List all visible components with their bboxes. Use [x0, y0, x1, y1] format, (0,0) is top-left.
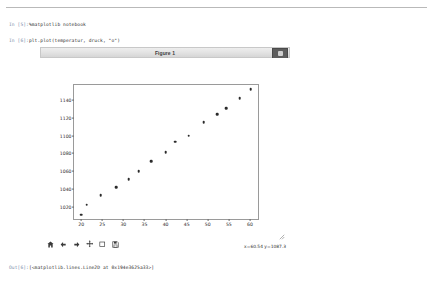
- x-tick-mark: [102, 219, 103, 221]
- matplotlib-figure-window[interactable]: Figure 1 1020104010601080110011201140202…: [40, 47, 290, 253]
- data-point: [164, 151, 167, 154]
- x-tick-mark: [81, 219, 82, 221]
- cell-code-in-5: %matplotlib notebook: [29, 22, 86, 27]
- y-tick-label: 1140: [60, 98, 72, 103]
- x-tick-mark: [144, 219, 145, 221]
- stop-square-icon: [278, 51, 283, 56]
- home-button[interactable]: [44, 238, 57, 250]
- data-point: [250, 88, 253, 91]
- notebook-cell-out-6: Out[6]:[<matplotlib.lines.Line2D at 0x19…: [9, 265, 154, 270]
- x-tick-mark: [250, 219, 251, 221]
- y-tick-mark: [72, 171, 74, 172]
- y-tick-mark: [72, 153, 74, 154]
- data-point: [99, 194, 102, 197]
- x-tick-mark: [123, 219, 124, 221]
- x-tick-mark: [207, 219, 208, 221]
- data-point: [85, 204, 88, 207]
- x-tick-label: 60: [247, 222, 253, 227]
- x-tick-label: 50: [205, 222, 211, 227]
- y-tick-mark: [72, 206, 74, 207]
- zoom-button[interactable]: [96, 238, 109, 250]
- cell-prompt-in-5: In [5]:: [9, 22, 29, 27]
- data-point: [80, 213, 83, 216]
- y-tick-label: 1020: [60, 204, 72, 209]
- x-tick-label: 45: [184, 222, 190, 227]
- figure-titlebar[interactable]: Figure 1: [40, 47, 290, 58]
- data-point: [128, 178, 131, 181]
- data-point: [150, 160, 153, 163]
- coordinate-readout: x=60.54 y=1087.3: [244, 244, 286, 249]
- y-tick-label: 1120: [60, 115, 72, 120]
- x-tick-label: 40: [163, 222, 169, 227]
- save-button[interactable]: [109, 238, 122, 250]
- cell-prompt-out-6: Out[6]:: [9, 265, 29, 270]
- y-tick-mark: [72, 135, 74, 136]
- x-tick-label: 30: [120, 222, 126, 227]
- x-tick-label: 25: [99, 222, 105, 227]
- figure-canvas[interactable]: 1020104010601080110011201140202530354045…: [40, 58, 290, 253]
- x-tick-mark: [186, 219, 187, 221]
- data-point: [202, 121, 205, 124]
- back-button[interactable]: [57, 238, 70, 250]
- x-tick-label: 55: [226, 222, 232, 227]
- data-point: [115, 186, 118, 189]
- data-point: [137, 170, 140, 173]
- y-tick-mark: [72, 188, 74, 189]
- x-tick-mark: [228, 219, 229, 221]
- y-tick-label: 1100: [60, 133, 72, 138]
- pan-button[interactable]: [83, 238, 96, 250]
- y-tick-label: 1080: [60, 151, 72, 156]
- notebook-cell-in-6[interactable]: In [6]:plt.plot(temperatur, druck, "o"): [9, 38, 120, 43]
- y-tick-mark: [72, 117, 74, 118]
- x-tick-label: 35: [142, 222, 148, 227]
- x-tick-mark: [165, 219, 166, 221]
- data-point: [225, 107, 228, 110]
- data-point: [174, 140, 177, 143]
- data-point: [187, 134, 190, 137]
- notebook-cell-in-5[interactable]: In [5]:%matplotlib notebook: [9, 22, 86, 27]
- plot-axes[interactable]: 1020104010601080110011201140202530354045…: [73, 84, 259, 220]
- y-tick-label: 1040: [60, 186, 72, 191]
- y-tick-mark: [72, 100, 74, 101]
- x-tick-label: 20: [78, 222, 84, 227]
- cell-code-in-6: plt.plot(temperatur, druck, "o"): [29, 38, 120, 43]
- notebook-top-divider: [6, 7, 427, 8]
- data-point: [239, 97, 242, 100]
- figure-title: Figure 1: [155, 50, 175, 56]
- data-point: [216, 113, 219, 116]
- cell-output-text: [<matplotlib.lines.Line2D at 0x194e3625a…: [29, 265, 154, 270]
- y-tick-label: 1060: [60, 169, 72, 174]
- cell-prompt-in-6: In [6]:: [9, 38, 29, 43]
- forward-button[interactable]: [70, 238, 83, 250]
- figure-resize-grip[interactable]: [279, 234, 285, 240]
